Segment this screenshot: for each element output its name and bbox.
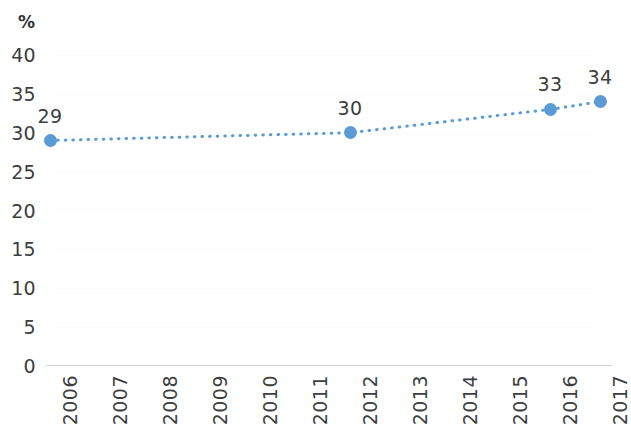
y-axis-tick-label: 25	[0, 161, 36, 183]
y-axis-tick-label: 30	[0, 122, 36, 144]
gridline	[56, 133, 596, 134]
data-point-marker[interactable]	[594, 95, 607, 108]
x-axis-tick-label: 2015	[509, 375, 531, 425]
x-axis-tick-label: 2010	[259, 375, 281, 425]
data-point-label: 33	[538, 73, 563, 95]
gridline	[56, 94, 596, 95]
gridline	[56, 249, 596, 250]
data-point-marker[interactable]	[544, 103, 557, 116]
data-point-label: 30	[338, 97, 363, 119]
y-axis-tick-label: 5	[0, 316, 36, 338]
x-axis-tick-label: 2007	[109, 375, 131, 425]
data-point-label: 29	[38, 105, 63, 127]
y-axis-tick-label: 20	[0, 200, 36, 222]
x-axis-tick-label: 2016	[559, 375, 581, 425]
y-axis-tick-label: 10	[0, 277, 36, 299]
gridline	[56, 288, 596, 289]
data-point-marker[interactable]	[344, 126, 357, 139]
data-point-marker[interactable]	[44, 134, 57, 147]
y-axis-tick-label: 40	[0, 44, 36, 66]
gridline	[56, 210, 596, 211]
y-axis-ticks: 0510152025303540	[0, 0, 40, 440]
x-axis-tick-label: 2011	[309, 375, 331, 425]
y-axis-tick-label: 0	[0, 355, 36, 377]
gridline	[56, 172, 596, 173]
gridline	[56, 55, 596, 56]
x-axis-tick-label: 2014	[459, 375, 481, 425]
y-axis-tick-label: 35	[0, 83, 36, 105]
x-axis-tick-label: 2017	[609, 375, 631, 425]
x-axis-tick-label: 2013	[409, 375, 431, 425]
y-axis-tick-label: 15	[0, 238, 36, 260]
x-axis-line	[46, 365, 612, 366]
x-axis-tick-label: 2006	[59, 375, 81, 425]
x-axis-tick-label: 2008	[159, 375, 181, 425]
x-axis-tick-label: 2012	[359, 375, 381, 425]
data-point-label: 34	[588, 66, 613, 88]
x-axis-tick-label: 2009	[209, 375, 231, 425]
gridline	[56, 327, 596, 328]
